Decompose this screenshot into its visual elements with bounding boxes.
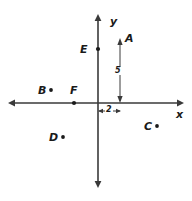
point-label-f: F — [70, 85, 78, 96]
point-dot-f — [72, 101, 76, 105]
axes-and-markers-svg — [0, 0, 192, 201]
y-axis — [95, 14, 102, 188]
x-axis-label: x — [176, 109, 183, 120]
point-dot-d — [61, 135, 65, 139]
y-axis-up-arrowhead — [95, 14, 102, 21]
x-axis — [8, 100, 184, 107]
point-label-b: B — [38, 85, 46, 96]
dimension-5-up-arrowhead — [117, 38, 122, 45]
dimension-label-5: 5 — [114, 67, 122, 75]
dimension-5-down-arrowhead — [117, 96, 122, 103]
point-dot-c — [155, 124, 159, 128]
y-axis-down-arrowhead — [95, 181, 102, 188]
x-axis-right-arrowhead — [177, 100, 184, 107]
point-label-d: D — [49, 132, 58, 143]
coordinate-plane-figure: y x A B C D E F 5 2 — [0, 0, 192, 201]
y-axis-label: y — [110, 16, 117, 27]
x-axis-left-arrowhead — [8, 100, 15, 107]
point-label-e: E — [80, 44, 88, 55]
dimension-label-2: 2 — [105, 106, 113, 114]
dimension-2-right-arrowhead — [116, 109, 121, 113]
point-label-a: A — [125, 33, 134, 44]
point-label-c: C — [144, 121, 152, 132]
point-dot-e — [96, 47, 100, 51]
point-dot-b — [49, 88, 53, 92]
